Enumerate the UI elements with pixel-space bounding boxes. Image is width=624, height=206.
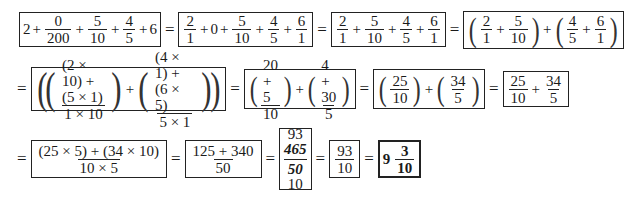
plus-sign: +: [75, 21, 83, 38]
fraction: 0200: [45, 13, 72, 46]
right-paren: ): [342, 72, 350, 106]
plus-sign: +: [139, 21, 147, 38]
left-paren: (: [555, 13, 563, 47]
fraction: 61: [595, 13, 607, 46]
plus-sign: +: [416, 21, 424, 38]
expression-box: 125 + 34050: [185, 140, 262, 178]
left-paren: (: [138, 67, 148, 111]
fraction-bar: [284, 159, 307, 160]
right-paren: ): [471, 72, 479, 106]
final-answer-box: 9 310: [378, 140, 422, 178]
fraction: 510: [509, 13, 528, 46]
expression-box: 21 + 0 + 510 + 45 + 61: [178, 12, 313, 47]
equals-sign: =: [171, 149, 181, 169]
plus-sign: +: [425, 81, 433, 98]
term: 6: [149, 21, 157, 38]
plus-sign: +: [582, 21, 590, 38]
fraction: 20 + 510: [261, 57, 280, 122]
whole-number: 9: [383, 151, 391, 168]
equals-sign: =: [165, 20, 175, 40]
expression-box: 9310: [329, 140, 360, 178]
right-paren: ): [284, 72, 292, 106]
fraction: 61: [296, 13, 308, 46]
term: 2: [23, 21, 31, 38]
expression-box: ( 21 + 510 ) + ( 45 + 61 ): [463, 11, 623, 49]
reduced-numerator: 93: [288, 127, 303, 142]
plus-sign: +: [126, 81, 134, 98]
reduced-denominator: 10: [288, 177, 303, 192]
left-paren: (: [437, 72, 445, 106]
fraction: 45: [268, 13, 280, 46]
fraction: 9310: [335, 143, 354, 176]
cancelled-fraction: 93 465 50 10: [280, 126, 311, 193]
fraction: 21: [481, 13, 493, 46]
left-paren: (: [379, 72, 387, 106]
plus-sign: +: [33, 21, 41, 38]
expression-box: 2510 + 345: [503, 71, 569, 107]
fraction: 125 + 34050: [191, 143, 256, 176]
fraction: 310: [395, 143, 414, 176]
equals-sign: =: [17, 149, 27, 169]
right-paren: ): [531, 13, 539, 47]
plus-sign: +: [283, 21, 291, 38]
plus-sign: +: [532, 81, 540, 98]
expression-box: ( 2510 ) + ( 345 ): [373, 69, 485, 109]
fraction: 45: [400, 13, 412, 46]
struck-numerator: 465: [284, 142, 307, 157]
plus-sign: +: [220, 21, 228, 38]
equation-row-1: 2 + 0200 + 510 + 45 + 6 = 21 + 0 + 510 +…: [19, 12, 624, 47]
equals-sign: =: [17, 79, 27, 99]
expression-box: 2 + 0200 + 510 + 45 + 6: [19, 12, 161, 47]
struck-denominator: 50: [288, 162, 303, 177]
plus-sign: +: [200, 21, 208, 38]
plus-sign: +: [388, 21, 396, 38]
equation-row-3: = (25 × 5) + (34 × 10)10 × 5 = 125 + 340…: [13, 128, 421, 190]
equals-sign: =: [317, 20, 327, 40]
plus-sign: +: [111, 21, 119, 38]
plus-sign: +: [255, 21, 263, 38]
plus-sign: +: [543, 21, 551, 38]
equals-sign: =: [266, 149, 276, 169]
plus-sign: +: [496, 21, 504, 38]
expression-box: ( 20 + 510 ) + ( 4 + 305 ): [244, 69, 356, 109]
plus-sign: +: [352, 21, 360, 38]
fraction: 510: [232, 13, 251, 46]
fraction: 4 + 305: [319, 57, 338, 122]
equals-sign: =: [450, 20, 460, 40]
fraction: (4 × 1) + (6 × 5)5 × 1: [153, 49, 197, 130]
expression-box: 21 + 510 + 45 + 61: [331, 12, 446, 47]
fraction: 45: [567, 13, 579, 46]
cancellation-box: 93 465 50 10: [279, 128, 312, 190]
fraction: 2510: [390, 73, 409, 106]
equals-sign: =: [364, 149, 374, 169]
equals-sign: =: [489, 79, 499, 99]
fraction: 61: [428, 13, 440, 46]
expression-box: (25 × 5) + (34 × 10)10 × 5: [31, 140, 167, 178]
fraction: 345: [544, 73, 563, 106]
plus-sign: +: [295, 81, 303, 98]
fraction: 21: [184, 13, 196, 46]
fraction: 2510: [509, 73, 528, 106]
equals-sign: =: [360, 79, 370, 99]
expression-box: ( ( (2 × 10) + (5 × 1)1 × 10 ) + ( (4 × …: [31, 67, 227, 111]
equation-row-2: = ( ( (2 × 10) + (5 × 1)1 × 10 ) + ( (4 …: [13, 67, 569, 111]
right-paren: ): [610, 13, 618, 47]
right-paren: ): [210, 67, 220, 111]
equals-sign: =: [316, 149, 326, 169]
fraction: 21: [337, 13, 349, 46]
fraction: 510: [365, 13, 384, 46]
fraction: 45: [123, 13, 135, 46]
equals-sign: =: [230, 79, 240, 99]
left-paren: (: [45, 67, 55, 111]
left-paren: (: [308, 72, 316, 106]
fraction: (2 × 10) + (5 × 1)1 × 10: [60, 57, 107, 122]
right-paren: ): [111, 67, 121, 111]
right-paren: ): [413, 72, 421, 106]
fraction: (25 × 5) + (34 × 10)10 × 5: [37, 143, 161, 176]
term: 0: [210, 21, 218, 38]
fraction: 345: [449, 73, 468, 106]
fraction: 510: [88, 13, 107, 46]
left-paren: (: [249, 72, 257, 106]
left-paren: (: [469, 13, 477, 47]
